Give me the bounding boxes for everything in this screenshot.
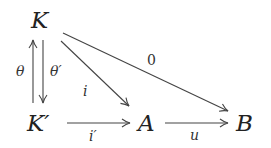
label-i: i [83,84,87,98]
node-K: K [31,9,48,32]
label-zero: 0 [147,53,156,67]
node-B: B [236,112,253,135]
label-i-prime: i′ [89,129,97,143]
node-A: A [138,112,155,135]
label-theta-prime: θ′ [50,64,62,78]
commutative-diagram: K K′ A B θ θ′ i 0 i′ u [0,0,271,148]
label-u: u [190,128,199,142]
node-K-prime: K′ [27,112,49,135]
arrow-i [61,41,129,106]
arrow-zero [63,33,228,111]
label-theta: θ [16,64,24,78]
